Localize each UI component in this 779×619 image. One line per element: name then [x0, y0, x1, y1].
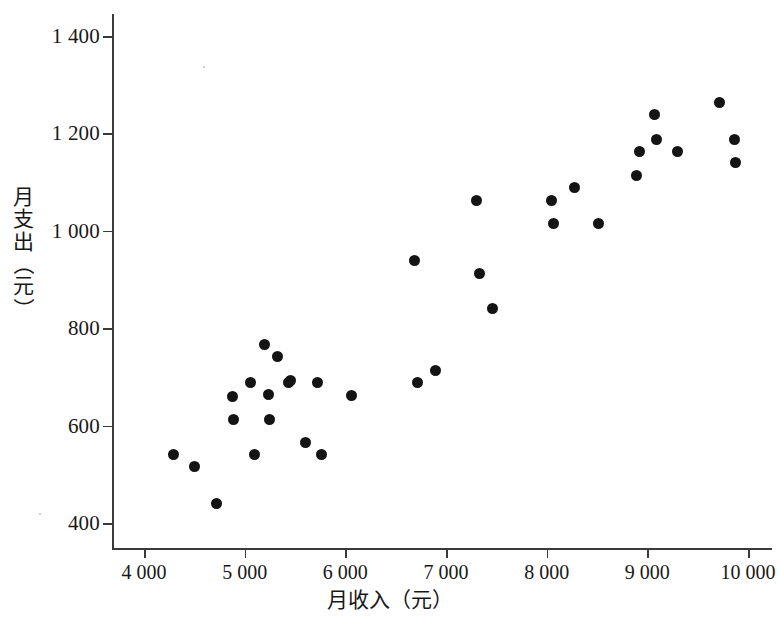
y-axis-tick-label: 400: [68, 513, 100, 534]
x-axis-tick-label: 10 000: [721, 562, 776, 582]
y-axis-title: 月支出（元）: [6, 186, 40, 320]
data-point: [593, 218, 604, 229]
data-point: [168, 449, 179, 460]
y-axis-tick: [103, 426, 112, 428]
y-axis-title-char: ）: [12, 291, 34, 325]
data-point: [211, 498, 222, 509]
x-axis-title: 月收入（元）: [0, 583, 779, 613]
y-axis-tick: [103, 328, 112, 330]
data-point: [631, 170, 642, 181]
data-point: [227, 391, 238, 402]
y-axis-tick: [103, 523, 112, 525]
x-axis-tick-label: 9 000: [625, 562, 670, 582]
data-point: [487, 303, 498, 314]
x-axis-tick-label: 4 000: [122, 562, 167, 582]
data-point: [651, 134, 662, 145]
y-axis-tick: [103, 231, 112, 233]
y-axis-title-char: 支: [6, 208, 40, 230]
x-axis-tick-label: 7 000: [424, 562, 469, 582]
data-point: [228, 414, 239, 425]
y-axis-tick-label: 1 200: [52, 123, 100, 144]
data-point: [312, 377, 323, 388]
data-point: [471, 195, 482, 206]
data-point: [546, 195, 557, 206]
data-point: [259, 339, 270, 350]
y-axis-title-char: 月: [6, 186, 40, 208]
x-axis-tick-label: 5 000: [222, 562, 267, 582]
paper-speck: [39, 513, 41, 515]
data-point: [300, 437, 311, 448]
y-axis-tick-label: 1 000: [52, 220, 100, 241]
x-axis-tick-label: 8 000: [524, 562, 569, 582]
scatter-plot-figure: 月支出（元） 4006008001 0001 2001 400 4 0005 0…: [0, 0, 779, 619]
y-axis-tick-label: 1 400: [52, 26, 100, 47]
y-axis-tick-label: 600: [68, 415, 100, 436]
data-point: [634, 146, 645, 157]
y-axis-tick: [103, 36, 112, 38]
data-point: [316, 449, 327, 460]
data-point: [672, 146, 683, 157]
x-axis-tick-label: 6 000: [323, 562, 368, 582]
plot-area: [112, 14, 772, 550]
y-axis-tick: [103, 133, 112, 135]
data-point: [474, 268, 485, 279]
data-point: [346, 390, 357, 401]
y-axis-title-char: （: [12, 247, 34, 281]
y-axis-tick-label: 800: [68, 318, 100, 339]
